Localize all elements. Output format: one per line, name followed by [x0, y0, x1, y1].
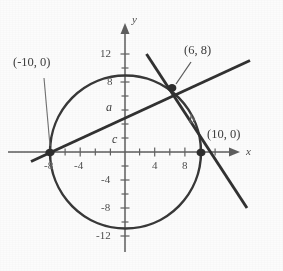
x-tick-label-8: 8: [182, 160, 188, 171]
marker-point-10-0: [197, 149, 206, 157]
point-label-neg10-0: (-10, 0): [13, 56, 51, 69]
x-axis-label: x: [246, 146, 251, 157]
point-label-10-0: (10, 0): [207, 128, 240, 141]
y-axis-label: y: [132, 14, 137, 25]
y-tick-label-neg12: -12: [96, 230, 111, 241]
curve-label-a: a: [106, 101, 112, 113]
y-tick-label-neg4: -4: [101, 174, 110, 185]
x-tick-label-neg8: -8: [44, 160, 53, 171]
y-axis-arrowhead: [121, 23, 130, 34]
curve-label-c: c: [112, 133, 117, 145]
figure-canvas: [0, 0, 283, 271]
geometry-figure: y x 12 8 -4 -8 -12 -8 -4 4 8 (-10, 0) (6…: [0, 0, 283, 271]
leader-line-neg10-0: [44, 78, 50, 146]
curve-label-b: b: [189, 113, 195, 125]
line-a: [31, 61, 250, 162]
x-axis-arrowhead: [229, 148, 240, 157]
y-tick-label-8: 8: [107, 76, 113, 87]
marker-point-neg10-0: [45, 149, 54, 157]
x-tick-label-4: 4: [152, 160, 158, 171]
y-tick-label-12: 12: [100, 48, 111, 59]
leader-line-6-8: [176, 62, 191, 84]
y-tick-label-neg8: -8: [101, 202, 110, 213]
marker-point-6-8: [168, 84, 177, 92]
point-label-6-8: (6, 8): [184, 44, 211, 57]
x-tick-label-neg4: -4: [74, 160, 83, 171]
